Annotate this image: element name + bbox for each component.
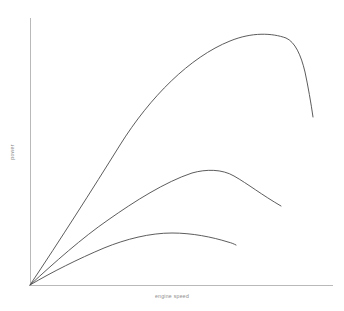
power-curve-low-load (30, 233, 236, 285)
x-axis-label: engine speed (0, 294, 344, 299)
y-axis-label: power (10, 132, 15, 172)
chart-container: engine speed power (0, 0, 344, 311)
plot-area (0, 0, 344, 311)
